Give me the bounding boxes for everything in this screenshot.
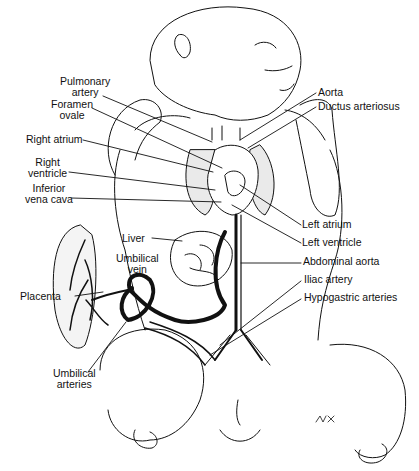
label-left-ventricle: Left ventricle: [302, 237, 362, 248]
artist-signature: [316, 416, 334, 422]
label-placenta: Placenta: [20, 291, 61, 302]
leader-lines-right: [210, 93, 316, 355]
infant-head: [150, 7, 301, 120]
label-pulmonary-artery: Pulmonary artery: [60, 76, 110, 98]
label-right-atrium: Right atrium: [26, 134, 83, 145]
label-line: ovale: [51, 110, 93, 121]
label-abdominal-aorta: Abdominal aorta: [303, 256, 379, 267]
label-line: arteries: [53, 379, 96, 390]
label-foramen-ovale: Foramen ovale: [51, 99, 93, 121]
label-umbilical-arteries: Umbilical arteries: [53, 368, 96, 390]
label-aorta: Aorta: [318, 87, 343, 98]
label-umbilical-vein: Umbilical vein: [116, 240, 159, 275]
label-ductus-arteriosus: Ductus arteriosus: [318, 101, 400, 112]
label-line: ventricle: [28, 168, 67, 179]
label-line: vein: [116, 264, 159, 275]
label-inferior-vena-cava: Inferior vena cava: [25, 183, 73, 205]
infant-arm-right: [296, 100, 339, 217]
label-hypogastric-arteries: Hypogastric arteries: [304, 292, 397, 303]
label-iliac-artery: Iliac artery: [304, 274, 352, 285]
abdominal-aorta-vessel: [205, 215, 270, 365]
label-line: artery: [60, 87, 110, 98]
label-left-atrium: Left atrium: [302, 219, 352, 230]
infant-legs: [100, 329, 406, 463]
umbilical-arteries: [145, 322, 215, 365]
label-right-ventricle: Right ventricle: [28, 157, 67, 179]
label-line: vena cava: [25, 194, 73, 205]
